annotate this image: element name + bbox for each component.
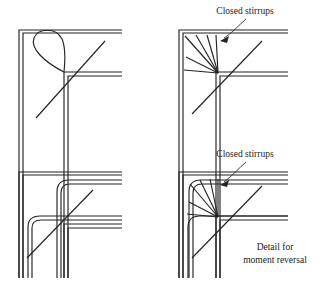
- panel-top-left: [19, 30, 122, 278]
- stirrup-line-br-3: [210, 179, 218, 217]
- outer-bar-top-left: [19, 30, 122, 278]
- rounded-bar-outer-offset-bottom-left: [61, 184, 122, 278]
- stirrup-leader-line-top: [224, 19, 246, 38]
- diagonal-bar-bottom-right: [192, 186, 262, 258]
- radial-stirrups-top-right: [184, 35, 218, 73]
- outer-bar-bottom-left: [19, 172, 122, 278]
- inner-bar-bottom-left: [64, 224, 122, 278]
- inner-bar-offset-top-left: [68, 76, 122, 278]
- closed-stirrups-label-top: Closed stirrups: [216, 6, 274, 16]
- radial-stirrups-bottom-right: [187, 179, 218, 217]
- moment-reversal-caption-line1: Detail for: [257, 242, 295, 252]
- inner-bar-offset-bottom-left: [68, 228, 122, 278]
- panel-bottom-left: [19, 172, 122, 278]
- loop-anchor-top-left: [33, 30, 65, 72]
- diagonal-bar-top-right: [192, 41, 262, 114]
- rounded-bar-inner-bottom-left: [28, 216, 122, 278]
- diagonal-bar-top-left: [36, 41, 105, 118]
- reinforcement-detail-figure: Closed stirrups: [0, 0, 320, 284]
- diagram-canvas: Closed stirrups: [0, 0, 320, 284]
- closed-stirrups-label-bottom: Closed stirrups: [216, 149, 274, 159]
- outer-bar-offset-top-left: [23, 33, 122, 278]
- outer-bar-offset-bottom-left: [23, 175, 122, 278]
- rounded-bar-outer-bottom-left: [57, 180, 122, 278]
- stirrup-leader-arrow-top: [220, 36, 229, 43]
- moment-reversal-caption-line2: moment reversal: [243, 255, 307, 265]
- rounded-bar-inner-offset-bottom-left: [32, 220, 122, 278]
